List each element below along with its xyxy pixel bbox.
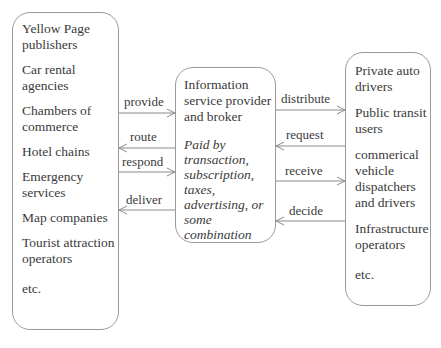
respond-label: respond — [122, 155, 163, 169]
deliver-label: deliver — [126, 193, 162, 207]
arrows-layer — [0, 0, 441, 348]
request-label: request — [286, 128, 324, 142]
provide-label: provide — [124, 95, 164, 109]
route-label: route — [130, 130, 157, 144]
receive-label: receive — [285, 164, 323, 178]
decide-label: decide — [289, 204, 323, 218]
distribute-label: distribute — [281, 92, 330, 106]
